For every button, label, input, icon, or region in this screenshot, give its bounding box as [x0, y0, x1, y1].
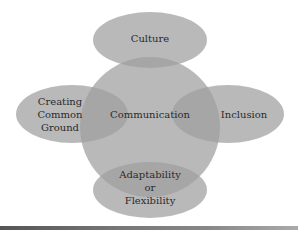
venn-diagram: Culture Creating Common Ground Communica…: [0, 0, 298, 230]
label-common: Common: [37, 109, 83, 120]
label-creating: Creating: [38, 96, 83, 107]
label-flexibility: Flexibility: [125, 195, 176, 206]
label-or: or: [145, 182, 156, 193]
label-inclusion: Inclusion: [221, 109, 268, 120]
label-culture: Culture: [131, 33, 170, 44]
bottom-divider: [0, 226, 298, 230]
label-ground: Ground: [41, 122, 80, 133]
label-communication: Communication: [110, 109, 191, 120]
label-adaptability: Adaptability: [118, 169, 181, 180]
